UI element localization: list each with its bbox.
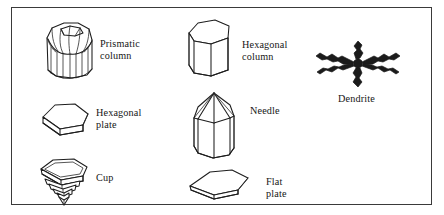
crystal-label-cup: Cup xyxy=(96,172,113,184)
figure-panel: Prismatic column Hexagona xyxy=(0,0,444,215)
figure-border-frame: Prismatic column Hexagona xyxy=(11,7,432,205)
flat-plate-crystal-icon xyxy=(188,168,254,204)
crystal-label-hexagonal-column: Hexagonal column xyxy=(242,39,287,63)
crystal-label-flat-plate: Flat plate xyxy=(266,176,287,200)
crystal-label-needle: Needle xyxy=(250,105,280,117)
needle-crystal-icon xyxy=(188,92,244,160)
prismatic-column-crystal-icon xyxy=(42,20,98,82)
cup-crystal-icon xyxy=(37,157,95,207)
crystal-label-hexagonal-plate: Hexagonal plate xyxy=(96,107,141,131)
hexagonal-plate-crystal-icon xyxy=(40,102,96,140)
dendrite-crystal-icon xyxy=(310,41,406,89)
crystal-label-dendrite: Dendrite xyxy=(338,93,375,105)
crystal-label-prismatic-column: Prismatic column xyxy=(100,38,140,62)
hexagonal-column-crystal-icon xyxy=(182,18,240,82)
